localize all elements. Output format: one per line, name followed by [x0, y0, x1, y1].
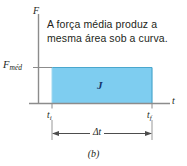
tick-label-tf: tf — [147, 110, 152, 122]
impulse-average-force-figure: A força média produz a mesma área sob a … — [0, 0, 187, 166]
delta-t-arrow-right — [145, 131, 152, 136]
average-force-label: Fméd — [3, 59, 22, 72]
tick-label-ti-subscript: i — [50, 114, 52, 122]
tick-label-tf-subscript: f — [150, 114, 152, 122]
delta-t-arrow-left — [52, 131, 59, 136]
annotation-text: A força média produz a mesma área sob a … — [47, 17, 182, 45]
average-force-label-subscript: méd — [9, 63, 22, 72]
tick-label-ti: ti — [47, 110, 52, 122]
annotation-line-2: mesma área sob a curva. — [47, 31, 182, 45]
delta-t-label: Δt — [90, 127, 104, 137]
y-axis-label: F — [33, 5, 39, 16]
x-axis-label: t — [172, 95, 175, 106]
impulse-area-label: J — [97, 79, 103, 91]
annotation-line-1: A força média produz a — [47, 17, 182, 31]
figure-caption: (b) — [0, 148, 187, 159]
